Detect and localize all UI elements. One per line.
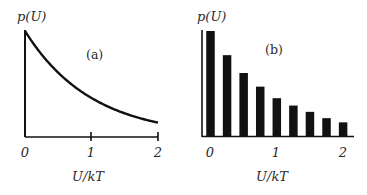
panel-b: p(U) (b) 0 1 2 U/kT	[197, 9, 354, 184]
panel-b-bar	[273, 98, 282, 136]
panel-b-tick-label-2: 2	[338, 145, 347, 160]
panel-b-bar	[223, 55, 232, 136]
panel-b-bar	[206, 31, 215, 136]
panel-b-x-axis-label: U/kT	[256, 169, 289, 184]
panel-b-tick-label-1: 1	[272, 145, 280, 160]
panel-b-bar	[322, 118, 331, 136]
panel-a-y-axis-label: p(U)	[17, 9, 46, 24]
panel-a-tag: (a)	[86, 47, 103, 62]
panel-b-tag: (b)	[265, 42, 283, 57]
panel-a-tick-label-0: 0	[21, 145, 29, 160]
panel-b-bar	[239, 73, 248, 136]
panel-a-tick-label-2: 2	[153, 145, 162, 160]
panel-a-x-axis-label: U/kT	[72, 169, 105, 184]
panel-a: p(U) (a) 0 1 2 U/kT	[17, 9, 162, 184]
figure: p(U) (a) 0 1 2 U/kT p(U) (b) 0 1 2 U/kT	[0, 0, 367, 195]
panel-b-bar	[289, 106, 298, 136]
panel-b-tick-label-0: 0	[206, 145, 214, 160]
panel-b-bar	[306, 112, 315, 136]
panel-b-y-axis-label: p(U)	[197, 9, 226, 24]
panel-b-bar	[339, 122, 348, 136]
panel-b-bar	[256, 87, 264, 136]
panel-a-exponential-curve	[25, 31, 158, 123]
panel-a-tick-label-1: 1	[87, 145, 95, 160]
